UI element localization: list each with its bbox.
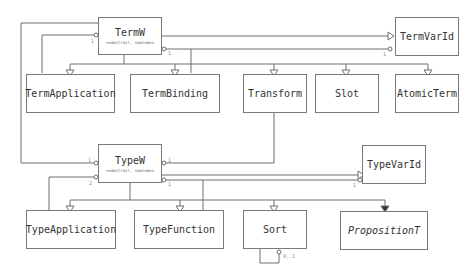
multiplicity-label: 2 — [89, 180, 92, 186]
class-name: Slot — [335, 88, 359, 99]
agg-end — [277, 250, 281, 254]
multiplicity-label: 1 — [353, 182, 356, 188]
class-typeapplication[interactable]: TypeApplication — [26, 210, 116, 249]
class-termapplication[interactable]: TermApplication — [26, 74, 115, 113]
class-name: TermW — [115, 27, 145, 38]
class-name: TermApplication — [25, 88, 115, 99]
class-stereotype: <<abstract, sealed>> — [106, 40, 154, 45]
multiplicity-label: 0..1 — [283, 253, 295, 259]
class-name: TypeFunction — [143, 224, 215, 235]
multiplicity-label: 1 — [88, 157, 91, 163]
edge-termapplication-termw — [42, 35, 94, 73]
agg-end — [162, 178, 166, 182]
multiplicity-label: 1 — [168, 181, 171, 187]
class-name: TypeW — [115, 155, 145, 166]
class-name: TypeApplication — [26, 224, 116, 235]
class-atomicterm[interactable]: AtomicTerm — [395, 74, 459, 113]
class-slot[interactable]: Slot — [315, 74, 379, 113]
class-name: TermBinding — [142, 88, 208, 99]
edge-transform-typew — [166, 113, 274, 163]
class-name: Transform — [248, 88, 302, 99]
agg-end — [388, 47, 392, 51]
edge-sort-self — [260, 249, 279, 263]
multiplicity-label: 1 — [383, 51, 386, 57]
class-typefunction[interactable]: TypeFunction — [134, 210, 224, 249]
class-propositiont[interactable]: PropositionT — [340, 211, 428, 250]
class-termbinding[interactable]: TermBinding — [130, 74, 220, 113]
class-name: TermVarId — [400, 31, 454, 42]
multiplicity-label: 1 — [91, 38, 94, 44]
class-typew[interactable]: TypeW <<abstract, sealed>> — [98, 144, 162, 183]
class-stereotype: <<abstract, sealed>> — [106, 168, 154, 173]
multiplicity-label: 1 — [168, 50, 171, 56]
class-name: AtomicTerm — [397, 88, 457, 99]
class-name: Sort — [263, 224, 287, 235]
multiplicity-label: 1 — [168, 157, 171, 163]
agg-end — [162, 47, 166, 51]
class-typevarid[interactable]: TypeVarId — [362, 145, 426, 184]
class-termvarid[interactable]: TermVarId — [395, 17, 459, 56]
class-name: PropositionT — [348, 225, 420, 236]
agg-end — [162, 161, 166, 165]
class-transform[interactable]: Transform — [243, 74, 307, 113]
gen-arrow — [388, 32, 394, 40]
class-termw[interactable]: TermW <<abstract, sealed>> — [98, 17, 162, 55]
class-name: TypeVarId — [367, 159, 421, 170]
class-sort[interactable]: Sort — [243, 210, 307, 249]
